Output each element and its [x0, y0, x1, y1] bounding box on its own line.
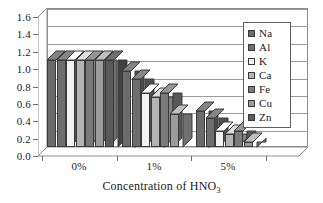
y-axis-tick — [33, 69, 38, 70]
y-axis-tick — [33, 139, 38, 140]
legend-label: Na — [259, 28, 272, 39]
y-axis-tick-label: 0.0 — [17, 151, 31, 162]
y-axis-tick — [33, 121, 38, 122]
legend-label: Zn — [259, 112, 272, 123]
x-axis-title-text: Concentration of HNO — [102, 179, 216, 193]
plot-floor — [38, 147, 308, 156]
legend-item-cu[interactable]: Cu — [248, 96, 287, 110]
bar-chart: 0.00.20.40.60.81.01.21.41.6 0%1%5% Conce… — [0, 0, 323, 203]
x-axis-label-5: 5% — [220, 160, 235, 172]
y-axis-tick-label: 0.4 — [17, 116, 31, 127]
legend-swatch-cu — [248, 100, 255, 107]
x-axis-tick — [117, 156, 118, 161]
legend-swatch-na — [248, 30, 255, 37]
y-axis-tick — [33, 87, 38, 88]
y-axis-tick-label: 1.2 — [17, 46, 31, 57]
y-axis-tick-label: 1.4 — [17, 29, 31, 40]
legend[interactable]: NaAlKCaFeCuZn — [243, 22, 291, 128]
legend-swatch-k — [248, 58, 255, 65]
y-axis-tick — [33, 34, 38, 35]
x-axis-tick — [42, 156, 43, 161]
x-axis-tick — [191, 156, 192, 161]
y-axis-tick-label: 1.0 — [17, 64, 31, 75]
legend-item-zn[interactable]: Zn — [248, 110, 287, 124]
legend-label: Al — [259, 42, 270, 53]
legend-item-na[interactable]: Na — [248, 26, 287, 40]
gridline — [48, 9, 307, 10]
legend-item-ca[interactable]: Ca — [248, 68, 287, 82]
legend-swatch-al — [248, 44, 255, 51]
legend-swatch-zn — [248, 114, 255, 121]
x-axis-title: Concentration of HNO3 — [0, 179, 323, 195]
legend-label: Fe — [259, 84, 270, 95]
gridline — [48, 131, 307, 132]
legend-label: K — [259, 56, 267, 67]
x-axis-tick — [266, 156, 267, 161]
y-axis-tick-label: 1.6 — [17, 12, 31, 23]
y-axis-tick — [33, 52, 38, 53]
legend-label: Ca — [259, 70, 272, 81]
legend-item-al[interactable]: Al — [248, 40, 287, 54]
y-axis-tick — [33, 17, 38, 18]
x-axis-label-0: 0% — [71, 160, 86, 172]
x-axis-label-1: 1% — [146, 160, 161, 172]
legend-label: Cu — [259, 98, 272, 109]
y-axis: 0.00.20.40.60.81.01.21.41.6 — [0, 8, 38, 156]
x-axis: 0%1%5% — [38, 160, 308, 176]
legend-swatch-fe — [248, 86, 255, 93]
y-axis-tick-label: 0.2 — [17, 133, 31, 144]
y-axis-tick-label: 0.8 — [17, 81, 31, 92]
y-axis-tick — [33, 104, 38, 105]
y-axis-tick-label: 0.6 — [17, 98, 31, 109]
y-axis-tick — [33, 156, 38, 157]
legend-item-fe[interactable]: Fe — [248, 82, 287, 96]
x-axis-title-subscript: 3 — [216, 186, 220, 195]
legend-item-k[interactable]: K — [248, 54, 287, 68]
legend-swatch-ca — [248, 72, 255, 79]
